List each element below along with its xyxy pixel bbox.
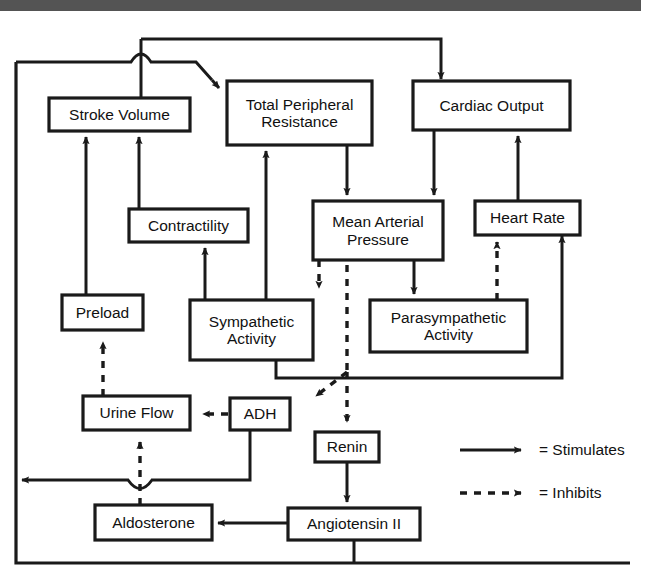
legend-stimulates-label: = Stimulates (539, 441, 625, 459)
figure-canvas: Stroke VolumeTotal Peripheral Resistance… (0, 0, 647, 577)
node-box-angiotensin_ii[interactable] (288, 508, 420, 540)
node-box-urine_flow[interactable] (83, 396, 190, 430)
edge-frame-to-tpr-arrow (212, 80, 219, 88)
node-box-aldosterone[interactable] (95, 505, 212, 540)
node-box-adh[interactable] (230, 398, 290, 430)
node-box-heart_rate[interactable] (475, 201, 580, 235)
node-box-total_peripheral[interactable] (227, 81, 372, 145)
node-box-stroke_volume[interactable] (49, 98, 190, 131)
edge-map-to-adh-dashed (316, 372, 347, 396)
node-box-parasympathetic[interactable] (370, 300, 527, 352)
edge-sv-to-cardiac-line (141, 39, 441, 74)
node-box-mean_arterial[interactable] (313, 201, 443, 260)
legend-inhibits-label: = Inhibits (539, 484, 601, 502)
node-box-preload[interactable] (62, 295, 143, 330)
edge-frame-to-tpr-line (16, 54, 212, 80)
node-box-sympathetic[interactable] (190, 300, 313, 360)
node-box-contractility[interactable] (129, 209, 248, 242)
node-box-cardiac_output[interactable] (413, 81, 570, 130)
node-box-renin[interactable] (315, 432, 379, 462)
